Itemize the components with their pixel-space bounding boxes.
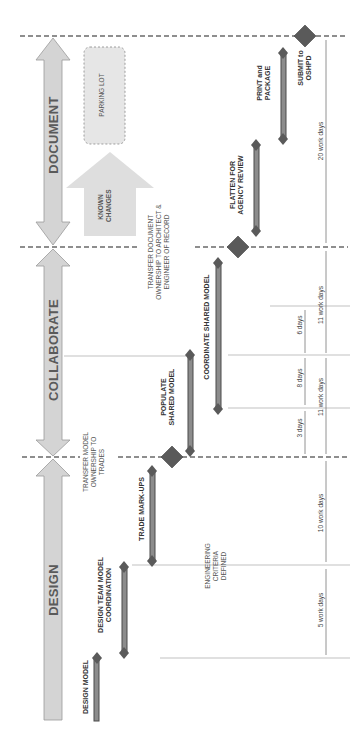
task-design-team-coordination: DESIGN TEAM MODEL COORDINATION xyxy=(97,550,114,640)
task-populate-shared-model: POPULATE SHARED MODEL xyxy=(160,364,177,430)
milestone-transfer-model: TRANSFER MODEL OWNERSHIP TO TRADES xyxy=(82,424,105,500)
task-trade-markups: TRADE MARK-UPS xyxy=(138,472,146,546)
duration-8-days: 8 days xyxy=(296,358,304,398)
milestone-transfer-document: TRANSFER DOCUMENT OWNERSHIP TO ARCHITECT… xyxy=(147,202,170,302)
schedule-diagram: DOCUMENT COLLABORATE DESIGN PARKING LOT … xyxy=(0,0,361,735)
parking-lot-label: PARKING LOT xyxy=(98,60,106,130)
duration-20-work-days: 20 work days xyxy=(317,106,325,176)
duration-11-work-days-b: 11 work days xyxy=(317,362,325,432)
milestone-submit-oshpd: SUBMIT to OSHPD xyxy=(297,48,314,88)
duration-11-work-days-a: 11 work days xyxy=(317,270,325,340)
task-design-model: DESIGN MODEL xyxy=(82,654,90,720)
duration-5-work-days: 5 work days xyxy=(317,575,325,645)
engineering-criteria-label: ENGINEERING CRITERIA DEFINED xyxy=(204,542,227,590)
task-print-package: PRINT and PACKAGE xyxy=(256,58,273,108)
phase-label-design: DESIGN xyxy=(46,550,62,630)
phase-label-document: DOCUMENT xyxy=(46,95,62,175)
duration-6-days: 6 days xyxy=(296,305,304,345)
duration-3-days: 3 days xyxy=(296,408,304,448)
duration-10-work-days: 10 work days xyxy=(317,478,325,548)
phase-label-collaborate: COLLABORATE xyxy=(46,295,62,405)
task-flatten-agency-review: FLATTEN FOR AGENCY REVIEW xyxy=(229,150,246,220)
known-changes-label: KNOWN CHANGES xyxy=(97,192,113,222)
task-coordinate-shared-model: COORDINATE SHARED MODEL xyxy=(203,267,211,387)
task-bars xyxy=(94,52,286,721)
